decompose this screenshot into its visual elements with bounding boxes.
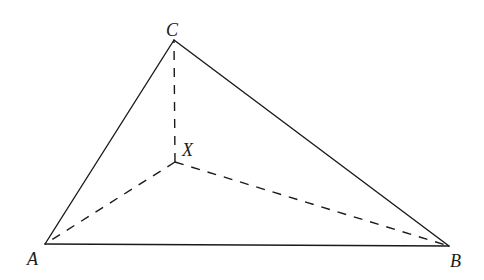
- vertex-label-c: C: [166, 20, 179, 40]
- vertex-label-a: A: [26, 249, 39, 269]
- triangle-diagram: A B C X: [0, 0, 484, 280]
- point-label-x: X: [181, 140, 194, 160]
- dashed-segment-xc: [174, 40, 175, 162]
- vertex-label-b: B: [450, 251, 461, 271]
- edge-ab: [45, 244, 449, 246]
- edge-ca: [45, 40, 174, 244]
- dashed-segment-xb: [175, 162, 449, 246]
- edge-bc: [174, 40, 449, 246]
- dashed-segment-xa: [45, 162, 175, 244]
